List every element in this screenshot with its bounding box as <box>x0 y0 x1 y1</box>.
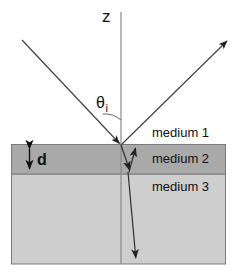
angle-arc <box>103 114 121 120</box>
incident-ray <box>22 40 120 144</box>
medium-2-label: medium 2 <box>152 152 209 165</box>
angle-label-theta-i: θi <box>96 95 108 114</box>
medium-3-label: medium 3 <box>152 180 209 193</box>
medium-1-label: medium 1 <box>152 126 209 139</box>
theta-subscript: i <box>105 102 108 114</box>
theta-symbol: θ <box>96 94 105 111</box>
optics-ray-diagram: z θi d medium 1 medium 2 medium 3 <box>0 0 238 278</box>
axis-label-z: z <box>102 8 111 25</box>
thickness-label-d: d <box>37 152 47 168</box>
